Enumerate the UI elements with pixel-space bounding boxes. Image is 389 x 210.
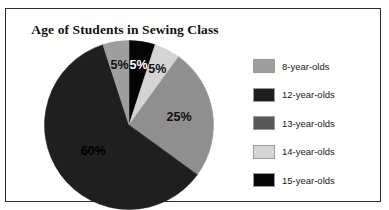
legend-item-14-year-olds[interactable]: 14-year-olds [253, 145, 378, 159]
legend-swatch-icon [253, 145, 275, 159]
pie-chart-screenshot: Age of Students in Sewing Class 5%5%25%6… [0, 0, 389, 210]
legend-item-13-year-olds[interactable]: 13-year-olds [253, 116, 378, 130]
pie-chart-svg: 5%5%25%60%5% [43, 40, 215, 210]
pie-chart: 5%5%25%60%5% [43, 40, 215, 210]
legend-item-label: 15-year-olds [282, 175, 335, 186]
legend-swatch-icon [253, 116, 275, 130]
legend-item-label: 8-year-olds [282, 61, 330, 72]
legend-item-8-year-olds[interactable]: 8-year-olds [253, 59, 378, 73]
pie-slice-value-label: 5% [148, 62, 166, 76]
legend-item-label: 12-year-olds [282, 89, 335, 100]
chart-legend: 8-year-olds12-year-olds13-year-olds14-ye… [253, 59, 378, 202]
pie-slice-value-label: 60% [81, 144, 106, 158]
page-title: Age of Students in Sewing Class [20, 22, 230, 38]
legend-item-15-year-olds[interactable]: 15-year-olds [253, 173, 378, 187]
legend-item-label: 14-year-olds [282, 146, 335, 157]
legend-item-label: 13-year-olds [282, 118, 335, 129]
pie-slice-value-label: 5% [129, 58, 147, 72]
chart-frame: Age of Students in Sewing Class 5%5%25%6… [5, 8, 381, 202]
legend-swatch-icon [253, 173, 275, 187]
legend-item-12-year-olds[interactable]: 12-year-olds [253, 88, 378, 102]
legend-swatch-icon [253, 59, 275, 73]
legend-swatch-icon [253, 88, 275, 102]
pie-slice-value-label: 5% [110, 58, 128, 72]
pie-slice-value-label: 25% [167, 110, 192, 124]
